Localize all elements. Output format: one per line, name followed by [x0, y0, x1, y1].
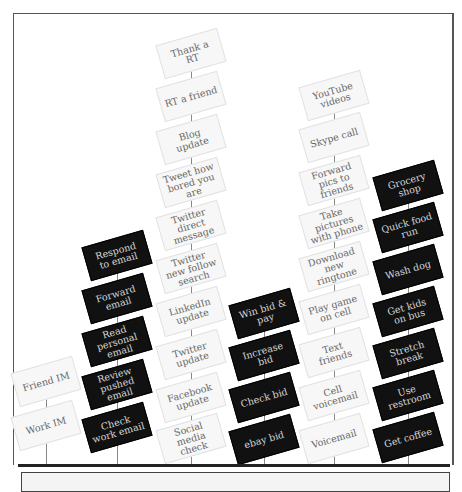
task-label: Win bid & pay [235, 296, 292, 330]
task-label: Respond to email [88, 238, 145, 272]
task-label: Skype call [309, 126, 359, 149]
task-label: Twitter update [162, 337, 219, 371]
task-label: Blog update [162, 122, 219, 156]
task-label: Cell voicemail [305, 378, 362, 412]
task-label: Grocery shop [379, 168, 436, 202]
task-label: Voicemail [310, 427, 357, 449]
task-label: Facebook update [162, 380, 219, 414]
task-label: Text friends [305, 335, 362, 369]
bottom-panel [21, 472, 450, 492]
task-label: Forward email [88, 281, 145, 315]
task-label: Work IM [25, 415, 68, 436]
task-label: ebay bid [243, 429, 285, 450]
task-label: Increase bid [235, 338, 292, 372]
task-label: Friend IM [21, 370, 70, 393]
task-label: LinkedIn update [162, 294, 219, 328]
task-label: Play game on cell [305, 292, 362, 326]
task-label: Check bid [239, 386, 288, 409]
task-label: Stretch break [379, 336, 436, 370]
task-label: RT a friend [164, 84, 219, 108]
task-label: Get coffee [383, 426, 433, 449]
task-label: Quick food run [379, 210, 436, 244]
timeline-baseline [18, 464, 450, 467]
task-label: Use restroom [379, 378, 436, 412]
task-label: YouTube videos [305, 78, 362, 112]
task-label: Thank a RT [162, 36, 219, 70]
task-label: Get kids on bus [379, 294, 436, 328]
task-label: Wash dog [384, 258, 431, 280]
task-label: Check work email [88, 410, 145, 444]
